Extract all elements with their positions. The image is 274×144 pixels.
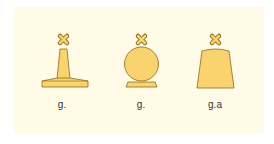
buoy-label-spherical: g. [121,99,161,110]
x-topmark-icon [212,36,219,43]
buoy-diagram [0,0,274,144]
can-buoy-icon [197,36,234,88]
buoy-label-pillar: g. [42,99,82,110]
pillar-buoy-icon [42,36,88,87]
x-topmark-icon [138,36,145,43]
spherical-buoy-icon [125,36,159,87]
x-topmark-icon [60,36,67,43]
buoy-label-can: g.a [195,99,235,110]
